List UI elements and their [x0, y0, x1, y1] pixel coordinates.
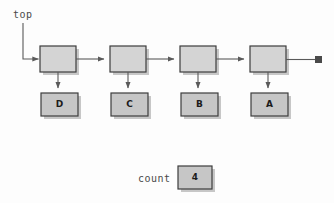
count-label: count [138, 173, 171, 184]
node-2-box[interactable] [110, 46, 146, 72]
top-pointer-connector [23, 23, 39, 59]
node-3-data-label: B [181, 100, 218, 109]
null-terminator-icon [315, 56, 322, 63]
node-4-box[interactable] [250, 46, 286, 72]
node-1-data-label: D [41, 100, 78, 109]
arrow-right-icon [23, 23, 39, 59]
node-1-box[interactable] [40, 46, 76, 72]
top-pointer-label: top [13, 9, 33, 20]
count-value: 4 [178, 173, 212, 182]
node-3-box[interactable] [180, 46, 216, 72]
node-2-data-label: C [111, 100, 148, 109]
linked-list-diagram: top count D C B A 4 [0, 0, 334, 203]
node-4-data-label: A [251, 100, 288, 109]
